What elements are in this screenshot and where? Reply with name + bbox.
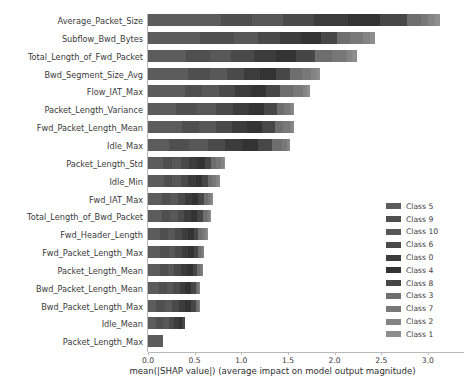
bar-segment: [148, 157, 163, 169]
bar-segment: [293, 103, 294, 115]
bar-segment: [249, 103, 264, 115]
y-tick-label: Fwd_Header_Length: [1, 229, 143, 241]
bar-segment: [148, 210, 162, 222]
x-tick-label: 3.0: [422, 356, 434, 365]
bar-segment: [231, 50, 254, 62]
legend-item-label: Class 2: [406, 317, 433, 326]
bar-segment: [148, 228, 160, 240]
bar-segment: [210, 50, 231, 62]
bar-segment: [148, 85, 185, 97]
bar-segment: [207, 228, 208, 240]
legend-swatch-icon: [386, 280, 401, 286]
legend-item-label: Class 4: [406, 266, 433, 275]
bar-segment: [148, 103, 176, 115]
x-tick-label: 2.0: [329, 356, 341, 365]
legend-item[interactable]: Class 6: [386, 238, 466, 251]
bar-segment: [188, 175, 195, 187]
bar-segment: [186, 50, 209, 62]
bar-segment: [212, 193, 213, 205]
legend-item-label: Class 1: [406, 330, 433, 339]
bar-segment: [283, 14, 314, 26]
legend-swatch-icon: [386, 267, 401, 273]
bar-segment: [169, 139, 190, 151]
bar-segment: [317, 68, 320, 80]
y-tick-label: Bwd_Packet_Length_Max: [1, 301, 143, 313]
bar-segment: [148, 121, 182, 133]
bar-row: [148, 264, 203, 276]
bar-segment: [197, 103, 216, 115]
bar-segment: [181, 157, 189, 169]
x-tick-mark: [148, 352, 149, 355]
legend-swatch-icon: [386, 319, 401, 325]
bar-row: [148, 14, 440, 26]
x-axis-label-text: mean(|SHAP value|) (average impact on mo…: [129, 366, 415, 376]
legend-item[interactable]: Class 0: [386, 251, 466, 264]
bar-segment: [162, 193, 170, 205]
legend-item[interactable]: Class 4: [386, 264, 466, 277]
y-tick-label: Fwd_Packet_Length_Max: [1, 247, 143, 259]
x-tick-mark: [195, 352, 196, 355]
bar-row: [148, 50, 357, 62]
bar-segment: [185, 85, 202, 97]
bar-segment: [301, 32, 321, 44]
legend-item-label: Class 3: [406, 291, 433, 300]
y-tick-label: Flow_IAT_Max: [1, 86, 143, 98]
bar-segment: [148, 246, 160, 258]
x-tick-mark: [288, 352, 289, 355]
bar-segment: [290, 68, 302, 80]
bar-segment: [148, 68, 188, 80]
bar-row: [148, 335, 163, 347]
legend-item-label: Class 10: [406, 227, 438, 236]
bar-segment: [160, 246, 168, 258]
bar-segment: [148, 300, 156, 312]
bar-segment: [148, 139, 169, 151]
bar-segment: [332, 50, 347, 62]
bar-segment: [242, 139, 258, 151]
legend-item-label: Class 5: [406, 202, 433, 211]
bar-segment: [168, 228, 175, 240]
bar-segment: [148, 282, 159, 294]
bar-segment: [262, 121, 275, 133]
bar-segment: [321, 32, 338, 44]
bar-row: [148, 85, 310, 97]
bar-segment: [224, 157, 226, 169]
bar-segment: [172, 157, 180, 169]
legend-item[interactable]: Class 7: [386, 302, 466, 315]
x-axis-label: mean(|SHAP value|) (average impact on mo…: [0, 366, 467, 376]
legend-item[interactable]: Class 2: [386, 315, 466, 328]
legend-swatch-icon: [386, 216, 401, 222]
y-tick-label: Subflow_Bwd_Bytes: [1, 33, 143, 45]
bar-segment: [199, 282, 200, 294]
bar-segment: [407, 14, 421, 26]
bar-segment: [216, 121, 232, 133]
bar-row: [148, 210, 211, 222]
bar-segment: [302, 68, 311, 80]
bar-segment: [260, 68, 276, 80]
legend-item[interactable]: Class 5: [386, 200, 466, 213]
legend-swatch-icon: [386, 229, 401, 235]
bar-segment: [181, 175, 188, 187]
legend-item[interactable]: Class 10: [386, 226, 466, 239]
x-tick-label: 1.5: [282, 356, 294, 365]
bar-segment: [272, 139, 282, 151]
bar-segment: [266, 85, 280, 97]
legend-item[interactable]: Class 1: [386, 328, 466, 341]
bar-row: [148, 246, 204, 258]
legend-item[interactable]: Class 8: [386, 277, 466, 290]
bar-row: [148, 32, 375, 44]
bar-segment: [148, 193, 162, 205]
bar-row: [148, 300, 200, 312]
bar-row: [148, 139, 290, 151]
legend-item[interactable]: Class 9: [386, 213, 466, 226]
bar-segment: [216, 103, 233, 115]
bar-segment: [264, 103, 277, 115]
legend-swatch-icon: [386, 331, 401, 337]
legend-item-label: Class 9: [406, 215, 433, 224]
bar-segment: [244, 68, 260, 80]
bar-row: [148, 121, 293, 133]
bar-segment: [315, 50, 332, 62]
legend-item-label: Class 6: [406, 240, 433, 249]
bar-segment: [164, 175, 172, 187]
bar-segment: [197, 157, 204, 169]
legend-item[interactable]: Class 3: [386, 290, 466, 303]
